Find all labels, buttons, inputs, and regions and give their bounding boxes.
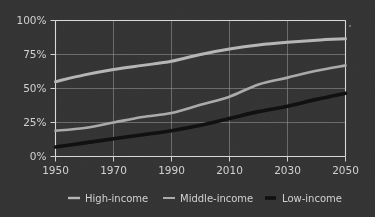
x-axis-tick-label: 2030 <box>274 164 301 176</box>
series-line-low-income <box>56 93 346 147</box>
corner-dot-icon <box>349 25 351 27</box>
x-axis-tick-label: 1970 <box>100 164 127 176</box>
y-axis-tick-label: 0% <box>30 150 47 162</box>
x-axis-tick-label: 2050 <box>332 164 359 176</box>
x-axis-tick-label: 1950 <box>42 164 69 176</box>
x-axis-tick-label: 1990 <box>158 164 185 176</box>
legend-label-middle-income[interactable]: Middle-income <box>180 193 253 204</box>
corner-marker-icon <box>349 25 351 27</box>
chart-legend: High-incomeMiddle-incomeLow-income <box>68 193 342 204</box>
y-axis-tick-label: 75% <box>23 48 46 60</box>
x-axis-labels: 195019701990201020302050 <box>42 164 359 176</box>
y-axis-tick-label: 50% <box>23 82 46 94</box>
chart-container: 0%25%50%75%100% 195019701990201020302050… <box>0 0 375 217</box>
data-series <box>56 39 346 147</box>
legend-label-low-income[interactable]: Low-income <box>282 193 342 204</box>
series-line-middle-income <box>56 65 346 130</box>
legend-label-high-income[interactable]: High-income <box>85 193 148 204</box>
x-axis-tick-label: 2010 <box>216 164 243 176</box>
y-axis-tick-label: 100% <box>16 14 46 26</box>
line-chart: 0%25%50%75%100% 195019701990201020302050… <box>0 0 375 217</box>
y-axis-labels: 0%25%50%75%100% <box>16 14 46 162</box>
y-axis-tick-label: 25% <box>23 116 46 128</box>
